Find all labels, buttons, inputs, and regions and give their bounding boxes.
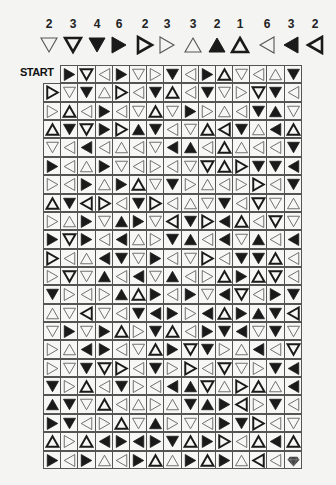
grid-cell[interactable] — [129, 304, 147, 322]
grid-cell[interactable] — [43, 249, 61, 267]
grid-cell[interactable] — [249, 304, 267, 322]
grid-cell[interactable] — [43, 377, 61, 395]
grid-cell[interactable] — [95, 138, 113, 156]
grid-cell[interactable] — [232, 175, 250, 193]
grid-cell[interactable] — [43, 304, 61, 322]
grid-cell[interactable] — [77, 414, 95, 432]
goal-cell[interactable] — [284, 451, 302, 469]
grid-cell[interactable] — [146, 451, 164, 469]
grid-cell[interactable] — [198, 322, 216, 340]
grid-cell[interactable] — [163, 157, 181, 175]
grid-cell[interactable] — [146, 285, 164, 303]
grid-cell[interactable] — [163, 322, 181, 340]
grid-cell[interactable] — [284, 102, 302, 120]
grid-cell[interactable] — [198, 377, 216, 395]
grid-cell[interactable] — [112, 304, 130, 322]
grid-cell[interactable] — [112, 157, 130, 175]
grid-cell[interactable] — [60, 322, 78, 340]
grid-cell[interactable] — [43, 157, 61, 175]
grid-cell[interactable] — [198, 395, 216, 413]
grid-cell[interactable] — [60, 451, 78, 469]
grid-cell[interactable] — [60, 432, 78, 450]
grid-cell[interactable] — [146, 138, 164, 156]
grid-cell[interactable] — [215, 340, 233, 358]
grid-cell[interactable] — [60, 212, 78, 230]
grid-cell[interactable] — [112, 65, 130, 83]
grid-cell[interactable] — [266, 285, 284, 303]
grid-cell[interactable] — [232, 102, 250, 120]
grid-cell[interactable] — [266, 65, 284, 83]
grid-cell[interactable] — [112, 102, 130, 120]
grid-cell[interactable] — [181, 212, 199, 230]
grid-cell[interactable] — [95, 120, 113, 138]
grid-cell[interactable] — [129, 395, 147, 413]
grid-cell[interactable] — [77, 83, 95, 101]
grid-cell[interactable] — [181, 414, 199, 432]
grid-cell[interactable] — [266, 138, 284, 156]
grid-cell[interactable] — [215, 304, 233, 322]
grid-cell[interactable] — [232, 230, 250, 248]
grid-cell[interactable] — [95, 432, 113, 450]
grid-cell[interactable] — [77, 304, 95, 322]
grid-cell[interactable] — [232, 414, 250, 432]
grid-cell[interactable] — [43, 451, 61, 469]
grid-cell[interactable] — [284, 432, 302, 450]
grid-cell[interactable] — [181, 432, 199, 450]
grid-cell[interactable] — [249, 230, 267, 248]
grid-cell[interactable] — [215, 83, 233, 101]
grid-cell[interactable] — [181, 120, 199, 138]
grid-cell[interactable] — [215, 451, 233, 469]
grid-cell[interactable] — [249, 451, 267, 469]
grid-cell[interactable] — [266, 451, 284, 469]
grid-cell[interactable] — [146, 212, 164, 230]
grid-cell[interactable] — [112, 322, 130, 340]
grid-cell[interactable] — [43, 432, 61, 450]
grid-cell[interactable] — [129, 432, 147, 450]
grid-cell[interactable] — [215, 267, 233, 285]
grid-cell[interactable] — [215, 138, 233, 156]
grid-cell[interactable] — [181, 102, 199, 120]
grid-cell[interactable] — [95, 395, 113, 413]
grid-cell[interactable] — [77, 194, 95, 212]
grid-cell[interactable] — [95, 414, 113, 432]
grid-cell[interactable] — [266, 267, 284, 285]
grid-cell[interactable] — [198, 212, 216, 230]
grid-cell[interactable] — [163, 432, 181, 450]
grid-cell[interactable] — [215, 285, 233, 303]
grid-cell[interactable] — [129, 414, 147, 432]
grid-cell[interactable] — [266, 359, 284, 377]
grid-cell[interactable] — [284, 285, 302, 303]
grid-cell[interactable] — [232, 194, 250, 212]
grid-cell[interactable] — [60, 65, 78, 83]
grid-cell[interactable] — [232, 267, 250, 285]
grid-cell[interactable] — [198, 249, 216, 267]
grid-cell[interactable] — [163, 395, 181, 413]
grid-cell[interactable] — [266, 340, 284, 358]
grid-cell[interactable] — [129, 359, 147, 377]
grid-cell[interactable] — [215, 157, 233, 175]
grid-cell[interactable] — [198, 230, 216, 248]
grid-cell[interactable] — [129, 377, 147, 395]
grid-cell[interactable] — [112, 175, 130, 193]
grid-cell[interactable] — [249, 340, 267, 358]
grid-cell[interactable] — [112, 395, 130, 413]
grid-cell[interactable] — [112, 285, 130, 303]
grid-cell[interactable] — [163, 175, 181, 193]
grid-cell[interactable] — [146, 340, 164, 358]
grid-cell[interactable] — [60, 359, 78, 377]
grid-cell[interactable] — [60, 395, 78, 413]
grid-cell[interactable] — [198, 175, 216, 193]
grid-cell[interactable] — [163, 414, 181, 432]
grid-cell[interactable] — [232, 285, 250, 303]
grid-cell[interactable] — [60, 175, 78, 193]
grid-cell[interactable] — [181, 395, 199, 413]
grid-cell[interactable] — [198, 120, 216, 138]
grid-cell[interactable] — [146, 65, 164, 83]
grid-cell[interactable] — [249, 432, 267, 450]
grid-cell[interactable] — [60, 414, 78, 432]
grid-cell[interactable] — [146, 322, 164, 340]
grid-cell[interactable] — [77, 175, 95, 193]
grid-cell[interactable] — [232, 340, 250, 358]
grid-cell[interactable] — [181, 65, 199, 83]
grid-cell[interactable] — [215, 395, 233, 413]
